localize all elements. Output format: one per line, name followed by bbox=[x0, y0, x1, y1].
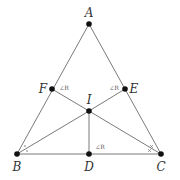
label-a: A bbox=[84, 6, 94, 20]
right-angle-label-e: ∠R bbox=[109, 84, 119, 91]
angle-mark-c-lower bbox=[148, 149, 151, 152]
point-b bbox=[14, 151, 20, 157]
point-a bbox=[86, 21, 92, 27]
point-d bbox=[86, 151, 92, 157]
segment-if bbox=[52, 89, 89, 111]
point-i bbox=[86, 108, 92, 114]
right-angle-label-f: ∠R bbox=[59, 84, 69, 91]
segment-ib bbox=[17, 111, 89, 154]
right-angle-label-d: ∠R bbox=[95, 143, 105, 150]
point-e bbox=[122, 86, 128, 92]
label-i: I bbox=[86, 93, 92, 107]
segment-ie bbox=[89, 89, 125, 111]
angle-mark-b-lower bbox=[26, 150, 27, 151]
angle-mark-b-upper bbox=[24, 145, 25, 146]
label-c: C bbox=[156, 160, 165, 174]
point-c bbox=[158, 151, 164, 157]
label-f: F bbox=[38, 82, 48, 96]
point-f bbox=[49, 86, 55, 92]
label-e: E bbox=[129, 82, 139, 96]
angle-mark-c-upper bbox=[150, 145, 153, 148]
label-d: D bbox=[83, 160, 94, 174]
label-b: B bbox=[12, 160, 22, 174]
geometry-diagram: ∠R ∠R ∠R A B C D E F I bbox=[0, 0, 180, 180]
